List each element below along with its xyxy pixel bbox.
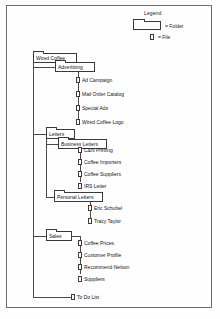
- file-to-do-list[interactable]: To Do List: [71, 293, 99, 301]
- folder-tab: [46, 229, 57, 232]
- file-ad-campaign[interactable]: Ad Campaign: [76, 76, 112, 84]
- branch-line-sales: [33, 236, 46, 237]
- file-label: IRS Letter: [84, 183, 107, 190]
- file-suppliers[interactable]: Suppliers: [78, 275, 105, 283]
- file-cn-printing[interactable]: C&N Printing: [78, 146, 113, 154]
- file-label: Special Ads: [82, 105, 108, 112]
- file-label: Coffee Suppliers: [84, 171, 121, 178]
- file-coffee-suppliers[interactable]: Coffee Suppliers: [78, 170, 121, 178]
- file-label: Mail Order Catalog: [82, 91, 124, 98]
- root-spine-line: [33, 58, 34, 297]
- file-icon: [88, 205, 92, 211]
- folder-tab: [46, 127, 57, 130]
- file-coffee-importers[interactable]: Coffee Importers: [78, 158, 121, 166]
- file-customer-profile[interactable]: Customer Profile: [78, 251, 121, 259]
- branch-line-letters: [33, 134, 46, 135]
- file-mail-order-catalog[interactable]: Mail Order Catalog: [76, 90, 124, 98]
- file-label: Ad Campaign: [82, 77, 112, 84]
- branch-line-personal-letters: [46, 197, 54, 198]
- file-label: Customer Profile: [84, 252, 121, 259]
- file-icon: [76, 77, 80, 83]
- file-label: To Do List: [77, 294, 99, 301]
- file-tracy-taylor[interactable]: Tracy Taylor: [88, 217, 121, 225]
- folder-label: Advertising: [58, 64, 83, 70]
- file-icon: [78, 252, 82, 258]
- folder-sales[interactable]: Sales: [46, 231, 72, 241]
- file-label: Eric Schubel: [94, 205, 122, 212]
- file-icon: [78, 159, 82, 165]
- branch-line-todo: [33, 297, 73, 298]
- branch-line-advertising: [33, 67, 55, 68]
- file-icon: [76, 119, 80, 125]
- file-label: Coffee Importers: [84, 159, 121, 166]
- folder-tab: [55, 60, 66, 63]
- file-icon: [76, 105, 80, 111]
- folder-tab: [58, 137, 69, 140]
- file-icon: [78, 264, 82, 270]
- file-icon: [78, 240, 82, 246]
- folder-tree: Wired Coffee Advertising Ad Campaign Mai…: [0, 0, 220, 319]
- file-eric-schubel[interactable]: Eric Schubel: [88, 204, 122, 212]
- file-icon: [71, 294, 75, 300]
- folder-tab: [54, 190, 65, 193]
- file-label: Wired Coffee Logo: [82, 119, 124, 126]
- file-label: Tracy Taylor: [94, 218, 121, 225]
- file-label: Recommend Nelson: [84, 264, 129, 271]
- sales-connector-line: [72, 236, 80, 237]
- file-icon: [78, 276, 82, 282]
- branch-line-business-letters: [46, 144, 58, 145]
- file-icon: [78, 171, 82, 177]
- folder-tab: [33, 51, 44, 54]
- folder-label: Sales: [49, 233, 62, 239]
- folder-label: Personal Letters: [57, 194, 93, 200]
- folder-personal-letters[interactable]: Personal Letters: [54, 192, 103, 202]
- letters-spine-line: [46, 139, 47, 197]
- file-label: C&N Printing: [84, 147, 113, 154]
- file-special-ads[interactable]: Special Ads: [76, 104, 108, 112]
- file-label: Coffee Prices: [84, 240, 114, 247]
- file-icon: [88, 218, 92, 224]
- file-wired-coffee-logo[interactable]: Wired Coffee Logo: [76, 118, 124, 126]
- file-label: Suppliers: [84, 276, 105, 283]
- file-icon: [78, 183, 82, 189]
- file-irs-letter[interactable]: IRS Letter: [78, 182, 107, 190]
- diagram-page: Legend = Folder = File Wired Coffee Adve…: [0, 0, 220, 319]
- file-icon: [78, 147, 82, 153]
- file-coffee-prices[interactable]: Coffee Prices: [78, 239, 114, 247]
- file-icon: [76, 91, 80, 97]
- file-recommend-nelson[interactable]: Recommend Nelson: [78, 263, 129, 271]
- folder-advertising[interactable]: Advertising: [55, 62, 95, 72]
